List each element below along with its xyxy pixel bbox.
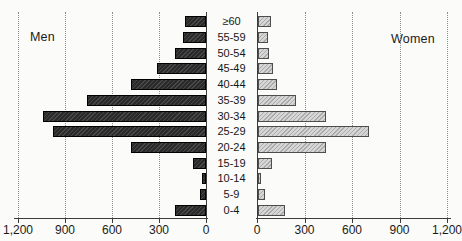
age-group-label: 35-39	[206, 94, 257, 106]
age-group-label: 0-4	[206, 204, 257, 216]
x-axis-tick-label: 900	[389, 223, 409, 237]
x-axis-tick-label: 600	[102, 223, 122, 237]
women-bar	[258, 63, 273, 74]
men-bar	[185, 16, 206, 27]
gridline	[447, 12, 448, 218]
x-axis-tick-label: 900	[55, 223, 75, 237]
women-bar	[258, 111, 326, 122]
men-bar	[87, 95, 206, 106]
women-bar	[258, 205, 285, 216]
men-bar	[175, 205, 206, 216]
x-axis-tick-label: 1,200	[3, 223, 33, 237]
x-axis-tick-label: 0	[254, 223, 261, 237]
x-axis-tick-label: 300	[149, 223, 169, 237]
right-x-axis-baseline	[256, 218, 451, 219]
men-bar	[193, 158, 206, 169]
men-bar	[157, 63, 206, 74]
left-x-axis-baseline	[14, 218, 208, 219]
women-bar	[258, 48, 269, 59]
women-bar	[258, 189, 265, 200]
x-axis-tick-label: 0	[203, 223, 210, 237]
men-bar	[175, 48, 206, 59]
men-bar	[131, 79, 206, 90]
age-group-label: 30-34	[206, 110, 257, 122]
gridline	[352, 12, 353, 218]
x-axis-tick-label: 300	[294, 223, 314, 237]
age-group-label: 40-44	[206, 78, 257, 90]
men-bar	[183, 32, 206, 43]
age-group-label: ≥60	[206, 15, 257, 27]
gridline	[18, 12, 19, 218]
women-bar	[258, 79, 277, 90]
women-series-label: Women	[391, 32, 435, 46]
x-axis-tick-label: 1,200	[432, 223, 462, 237]
women-bar	[258, 16, 271, 27]
women-bar	[258, 32, 268, 43]
men-series-label: Men	[30, 30, 55, 44]
women-bar	[258, 158, 272, 169]
gridline	[400, 12, 401, 218]
women-bar	[258, 142, 326, 153]
x-axis-tick-label: 600	[342, 223, 362, 237]
age-group-label: 20-24	[206, 141, 257, 153]
age-group-label: 50-54	[206, 47, 257, 59]
age-group-label: 25-29	[206, 125, 257, 137]
age-group-label: 55-59	[206, 31, 257, 43]
women-bar	[258, 173, 261, 184]
age-group-label: 5-9	[206, 188, 257, 200]
men-bar	[53, 126, 206, 137]
women-bar	[258, 126, 369, 137]
age-group-label: 45-49	[206, 62, 257, 74]
age-group-label: 15-19	[206, 157, 257, 169]
men-bar	[131, 142, 206, 153]
women-bar	[258, 95, 296, 106]
men-bar	[43, 111, 206, 122]
age-group-label: 10-14	[206, 172, 257, 184]
